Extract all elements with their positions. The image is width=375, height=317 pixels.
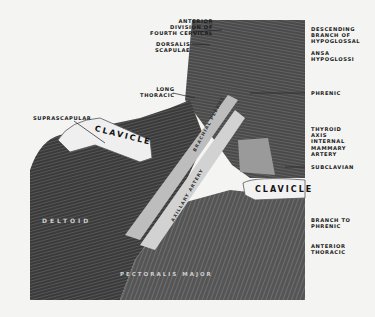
label-pectoralis-major: PECTORALIS MAJOR	[120, 271, 213, 277]
label-anterior-thoracic: ANTERIOR THORACIC	[311, 243, 346, 255]
label-phrenic: PHRENIC	[311, 90, 341, 96]
label-anterior-division-fourth-cervical: ANTERIOR DIVISION OF FOURTH CERVICAL	[150, 18, 213, 37]
label-ansa-hypoglossi: ANSA HYPOGLOSSI	[311, 50, 354, 62]
label-descending-branch-hypoglossal: DESCENDING BRANCH OF HYPOGLOSSAL	[311, 26, 360, 45]
label-dorsalis-scapulae: DORSALIS SCAPULAE	[155, 41, 190, 53]
label-subclavian: SUBCLAVIAN	[311, 164, 354, 170]
label-thyroid-axis-internal-mammary-artery: THYROID AXIS INTERNAL MAMMARY ARTERY	[311, 126, 346, 157]
label-branch-to-phrenic: BRANCH TO PHRENIC	[311, 217, 351, 229]
label-clavicle-right: CLAVICLE	[255, 185, 313, 194]
label-suprascapular: SUPRASCAPULAR	[33, 115, 91, 121]
label-deltoid: DELTOID	[42, 217, 91, 224]
label-long-thoracic: LONG THORACIC	[140, 86, 175, 98]
